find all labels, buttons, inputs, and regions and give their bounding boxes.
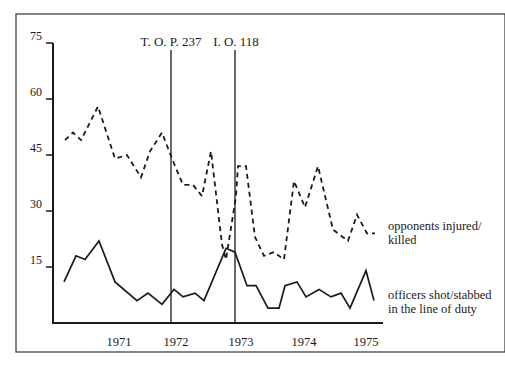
series-opponents-injured-killed: [65, 107, 375, 260]
legend-officers-line1: officers shot/stabbed: [388, 288, 492, 302]
annotation-io-118: I. O. 118: [213, 34, 259, 49]
annotation-top-237: T. O. P. 237: [140, 34, 202, 49]
data-series: [64, 107, 375, 309]
y-tick-label: 60: [30, 85, 42, 99]
legend-officers-line2: in the line of duty: [388, 302, 478, 316]
x-tick-label: 1973: [229, 335, 254, 349]
x-tick-label: 1972: [164, 335, 189, 349]
y-tick-label: 45: [30, 141, 42, 155]
policy-markers: [171, 50, 235, 323]
chart-labels: T. O. P. 237 I. O. 118 opponents injured…: [140, 34, 492, 316]
x-tick-label: 1971: [107, 335, 132, 349]
y-tick-label: 30: [30, 197, 42, 211]
legend-opponents-line2: killed: [388, 233, 417, 247]
line-chart: 756045301519711972197319741975 T. O. P. …: [0, 0, 505, 367]
y-tick-label: 15: [30, 253, 42, 267]
series-officers-shot-stabbed: [64, 241, 374, 308]
y-tick-label: 75: [30, 29, 42, 43]
legend-opponents-line1: opponents injured/: [388, 219, 482, 233]
axes: 756045301519711972197319741975: [30, 29, 383, 349]
x-tick-label: 1974: [292, 335, 318, 349]
x-tick-label: 1975: [354, 335, 379, 349]
